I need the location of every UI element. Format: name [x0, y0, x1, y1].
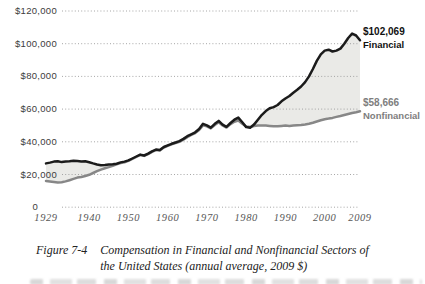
x-axis-tick-label: 1990	[274, 212, 298, 223]
caption-line-1: Compensation in Financial and Nonfinanci…	[100, 243, 369, 259]
x-axis-tick-label: 1960	[156, 212, 180, 223]
nonfinancial-line	[46, 111, 360, 182]
x-axis-tick-label: 1940	[77, 212, 101, 223]
financial-series-label: $102,069 Financial	[363, 25, 405, 51]
cropped-next-line-text	[30, 279, 422, 284]
x-axis-tick-label: 2000	[313, 212, 337, 223]
nonfinancial-end-value: $58,666	[363, 96, 420, 109]
y-axis-tick-label: $100,000	[15, 38, 57, 49]
figure-caption-text: Compensation in Financial and Nonfinanci…	[100, 243, 369, 274]
y-axis-tick-label: $120,000	[15, 5, 57, 16]
y-axis-tick-label: $80,000	[21, 70, 57, 81]
y-axis-tick-label: $40,000	[21, 136, 57, 147]
nonfinancial-series-label: $58,666 Nonfinancial	[363, 96, 420, 122]
caption-line-2: the United States (annual average, 2009 …	[100, 259, 369, 275]
x-axis-tick-label: 2009	[348, 212, 372, 223]
x-axis-tick-label: 1970	[195, 212, 219, 223]
x-axis-tick-label: 1950	[117, 212, 141, 223]
financial-end-value: $102,069	[363, 25, 405, 38]
y-axis-tick-label: $60,000	[21, 103, 57, 114]
figure-number: Figure 7-4	[36, 243, 87, 274]
book-figure-page: $120,000$100,000$80,000$60,000$40,000$20…	[0, 0, 425, 284]
financial-series-name: Financial	[363, 38, 405, 51]
nonfinancial-series-name: Nonfinancial	[363, 109, 420, 122]
x-axis-tick-label: 1980	[234, 212, 258, 223]
fill-between-area	[46, 34, 360, 183]
x-axis-tick-label: 1929	[34, 212, 58, 223]
figure-caption: Figure 7-4 Compensation in Financial and…	[36, 243, 369, 274]
compensation-line-chart: $120,000$100,000$80,000$60,000$40,000$20…	[0, 0, 425, 232]
y-axis-tick-label: 0	[32, 201, 38, 212]
y-axis-tick-label: $20,000	[21, 169, 57, 180]
